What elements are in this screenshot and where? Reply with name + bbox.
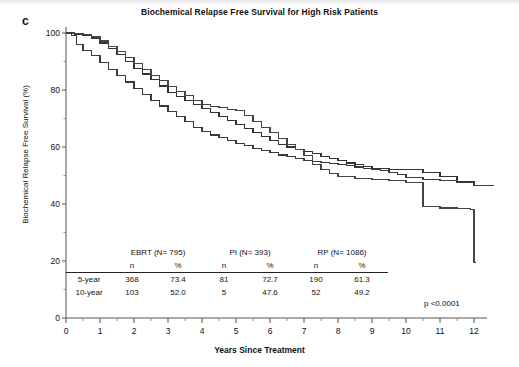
table-cell: 190 xyxy=(296,273,336,287)
table-cell: 73.4 xyxy=(152,273,204,287)
table-cell: 47.6 xyxy=(244,286,296,299)
table-corner-cell xyxy=(66,246,112,259)
table-cell: 103 xyxy=(112,286,152,299)
table-cell: 52 xyxy=(296,286,336,299)
table-subheader: n xyxy=(204,259,244,273)
survival-curve xyxy=(66,33,488,186)
table-cell: 49.2 xyxy=(336,286,388,299)
summary-table: EBRT (N= 795)PI (N= 393)RP (N= 1086)n%n%… xyxy=(66,246,388,299)
table-group-header-row: EBRT (N= 795)PI (N= 393)RP (N= 1086) xyxy=(66,246,388,259)
table-subheader: % xyxy=(336,259,388,273)
table-group-header: RP (N= 1086) xyxy=(296,246,388,259)
figure-panel: c Biochemical Relapse Free Survival for … xyxy=(0,0,519,367)
table-subheader: n xyxy=(112,259,152,273)
table-row: 10-year10352.0547.65249.2 xyxy=(66,286,388,299)
table-subheader-row: n%n%n% xyxy=(66,259,388,273)
table-group-header: PI (N= 393) xyxy=(204,246,296,259)
p-value-annotation: p <0.0001 xyxy=(424,299,460,308)
table-cell: 52.0 xyxy=(152,286,204,299)
table-subheader: % xyxy=(152,259,204,273)
table-subheader: n xyxy=(296,259,336,273)
table-cell: 81 xyxy=(204,273,244,287)
table-corner-cell xyxy=(66,259,112,273)
survival-plot xyxy=(0,0,519,367)
table-group-header: EBRT (N= 795) xyxy=(112,246,204,259)
table-cell: 368 xyxy=(112,273,152,287)
table-cell: 61.3 xyxy=(336,273,388,287)
survival-curve xyxy=(66,33,476,262)
table-row: 5-year36873.48172.719061.3 xyxy=(66,273,388,287)
table-subheader: % xyxy=(244,259,296,273)
survival-curve xyxy=(66,33,494,185)
table-row-label: 5-year xyxy=(66,273,112,287)
table-row-label: 10-year xyxy=(66,286,112,299)
table-cell: 72.7 xyxy=(244,273,296,287)
table-cell: 5 xyxy=(204,286,244,299)
